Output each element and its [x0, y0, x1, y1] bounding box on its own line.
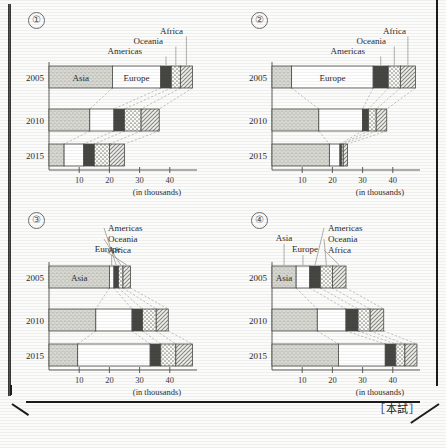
chart-option-4: ④ 10203040(in thousands)200520102015Asia… [223, 204, 446, 416]
plot-area-1: 10203040(in thousands)200520102015AsiaEu… [0, 4, 223, 216]
svg-text:40: 40 [166, 175, 175, 185]
svg-text:2015: 2015 [26, 151, 45, 161]
svg-text:40: 40 [166, 375, 175, 385]
svg-text:30: 30 [358, 175, 367, 185]
svg-text:Oceania: Oceania [108, 234, 137, 244]
svg-text:2010: 2010 [249, 316, 268, 326]
svg-text:Africa: Africa [328, 245, 351, 255]
svg-text:30: 30 [135, 175, 144, 185]
svg-text:10: 10 [298, 175, 307, 185]
svg-text:20: 20 [328, 175, 337, 185]
svg-text:(in thousands): (in thousands) [133, 187, 182, 197]
svg-text:Americas: Americas [328, 223, 363, 233]
svg-text:2005: 2005 [26, 73, 45, 83]
svg-text:Oceania: Oceania [134, 36, 163, 46]
svg-text:Europe: Europe [319, 73, 345, 83]
svg-text:10: 10 [298, 375, 307, 385]
svg-text:40: 40 [389, 375, 398, 385]
plot-area-3: 10203040(in thousands)200520102015AsiaEu… [0, 204, 223, 416]
plot-area-4: 10203040(in thousands)200520102015AsiaAs… [223, 204, 446, 416]
svg-text:2015: 2015 [26, 351, 45, 361]
svg-text:(in thousands): (in thousands) [356, 387, 405, 397]
svg-text:2005: 2005 [249, 73, 268, 83]
svg-text:2005: 2005 [249, 273, 268, 283]
svg-text:30: 30 [358, 375, 367, 385]
svg-text:10: 10 [75, 375, 84, 385]
svg-text:10: 10 [75, 175, 84, 185]
svg-text:2010: 2010 [249, 116, 268, 126]
svg-text:Africa: Africa [108, 245, 131, 255]
chart-option-3: ③ 10203040(in thousands)200520102015Asia… [0, 204, 223, 416]
svg-text:Asia: Asia [71, 273, 88, 283]
svg-text:20: 20 [105, 375, 114, 385]
svg-text:Americas: Americas [108, 223, 143, 233]
chart-option-1: ① 10203040(in thousands)200520102015Asia… [0, 4, 223, 216]
svg-text:2010: 2010 [26, 316, 45, 326]
svg-text:Oceania: Oceania [328, 234, 357, 244]
svg-text:40: 40 [389, 175, 398, 185]
svg-text:2015: 2015 [249, 351, 268, 361]
svg-text:2005: 2005 [26, 273, 45, 283]
svg-text:20: 20 [105, 175, 114, 185]
svg-text:Americas: Americas [108, 46, 143, 56]
svg-text:Asia: Asia [276, 233, 293, 243]
svg-text:Americas: Americas [331, 46, 366, 56]
svg-text:2015: 2015 [249, 151, 268, 161]
svg-text:Asia: Asia [276, 273, 293, 283]
chart-option-2: ② 10203040(in thousands)200520102015Euro… [223, 4, 446, 216]
svg-text:Europe: Europe [292, 244, 318, 254]
svg-text:20: 20 [328, 375, 337, 385]
svg-text:Oceania: Oceania [357, 36, 386, 46]
svg-text:(in thousands): (in thousands) [133, 387, 182, 397]
svg-text:(in thousands): (in thousands) [356, 187, 405, 197]
svg-text:Asia: Asia [72, 73, 89, 83]
svg-text:Africa: Africa [383, 26, 406, 36]
source-caption: ［本試］ [374, 400, 420, 416]
svg-text:Africa: Africa [160, 26, 183, 36]
scanned-page: ① 10203040(in thousands)200520102015Asia… [0, 0, 446, 448]
svg-text:Europe: Europe [124, 73, 150, 83]
svg-text:30: 30 [135, 375, 144, 385]
plot-area-2: 10203040(in thousands)200520102015Europe… [223, 4, 446, 216]
svg-text:2010: 2010 [26, 116, 45, 126]
